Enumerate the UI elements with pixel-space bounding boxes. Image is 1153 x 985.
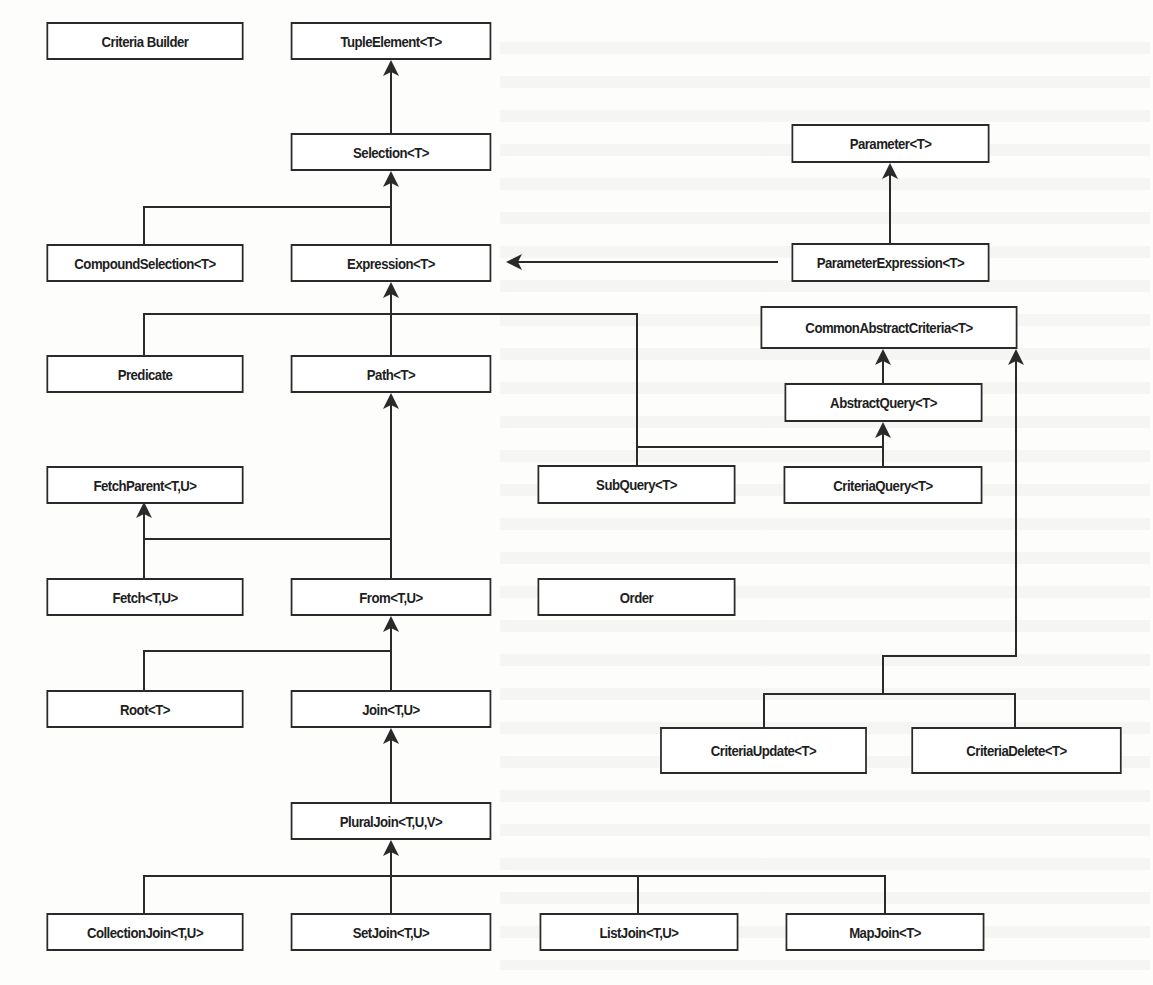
class-box-join: Join<T,U> <box>291 690 492 728</box>
class-label: Fetch<T,U> <box>112 589 177 606</box>
class-box-fetch: Fetch<T,U> <box>46 578 243 616</box>
class-box-criteria-query: CriteriaQuery<T> <box>784 466 983 504</box>
class-box-selection: Selection<T> <box>291 133 492 171</box>
class-label: Order <box>620 589 653 606</box>
edge-joins-bus <box>144 876 885 913</box>
class-box-subquery: SubQuery<T> <box>538 465 736 504</box>
class-label: CriteriaUpdate<T> <box>711 742 816 759</box>
class-box-root: Root<T> <box>46 690 243 728</box>
class-box-criteria-builder: Criteria Builder <box>46 22 243 60</box>
class-box-compound-selection: CompoundSelection<T> <box>46 244 243 282</box>
class-label: TupleElement<T> <box>340 33 441 50</box>
class-label: Predicate <box>118 366 173 383</box>
class-box-collection-join: CollectionJoin<T,U> <box>46 913 243 951</box>
class-label: From<T,U> <box>359 589 422 606</box>
edge-root-from <box>144 651 391 690</box>
class-box-criteria-update: CriteriaUpdate<T> <box>660 727 867 774</box>
class-box-map-join: MapJoin<T> <box>786 913 985 951</box>
class-label: Path<T> <box>367 366 415 383</box>
class-label: Criteria Builder <box>102 33 189 50</box>
class-box-parameter-expression: ParameterExpression<T> <box>792 243 990 282</box>
class-label: Parameter<T> <box>850 135 932 152</box>
class-box-fetch-parent: FetchParent<T,U> <box>46 466 243 504</box>
class-label: FetchParent<T,U> <box>93 477 196 494</box>
class-box-set-join: SetJoin<T,U> <box>291 913 492 951</box>
class-box-list-join: ListJoin<T,U> <box>540 913 739 951</box>
class-box-predicate: Predicate <box>46 355 243 393</box>
class-label: PluralJoin<T,U,V> <box>340 813 443 830</box>
edge-criteria-update-delete-bus <box>764 694 1015 727</box>
class-label: Selection<T> <box>353 144 429 161</box>
class-label: ParameterExpression<T> <box>817 254 965 271</box>
class-label: ListJoin<T,U> <box>600 924 679 941</box>
class-label: CompoundSelection<T> <box>74 255 215 272</box>
class-box-abstract-query: AbstractQuery<T> <box>785 383 983 422</box>
class-box-order: Order <box>538 578 736 616</box>
edge-compoundselection-selection <box>144 207 391 244</box>
class-label: CriteriaDelete<T> <box>966 742 1066 759</box>
class-label: SubQuery<T> <box>596 476 677 493</box>
class-label: Root<T> <box>120 701 170 718</box>
class-box-tuple-element: TupleElement<T> <box>291 22 492 60</box>
class-label: SetJoin<T,U> <box>353 924 430 941</box>
class-label: Expression<T> <box>347 255 435 272</box>
class-box-expression: Expression<T> <box>291 244 492 282</box>
class-label: CriteriaQuery<T> <box>833 477 932 494</box>
class-box-path: Path<T> <box>291 355 492 393</box>
class-label: CollectionJoin<T,U> <box>87 924 203 941</box>
class-label: CommonAbstractCriteria<T> <box>805 319 972 336</box>
class-box-plural-join: PluralJoin<T,U,V> <box>291 802 492 840</box>
diagram-page: Criteria Builder TupleElement<T> Selecti… <box>0 0 1153 985</box>
class-box-common-abstract-criteria: CommonAbstractCriteria<T> <box>761 306 1018 349</box>
class-label: Join<T,U> <box>362 701 420 718</box>
class-box-parameter: Parameter<T> <box>792 124 990 163</box>
class-box-from: From<T,U> <box>291 578 492 616</box>
class-box-criteria-delete: CriteriaDelete<T> <box>911 727 1121 774</box>
class-label: AbstractQuery<T> <box>830 394 937 411</box>
class-label: MapJoin<T> <box>849 924 921 941</box>
